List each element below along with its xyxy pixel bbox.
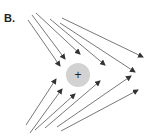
plus-sign: + (74, 68, 81, 82)
field-arrow (45, 81, 100, 128)
field-arrow (36, 13, 80, 54)
field-arrow (28, 20, 60, 66)
field-arrow (57, 76, 131, 127)
field-lines-diagram: + (0, 0, 154, 137)
field-arrow (35, 94, 75, 130)
field-arrow (32, 15, 65, 59)
